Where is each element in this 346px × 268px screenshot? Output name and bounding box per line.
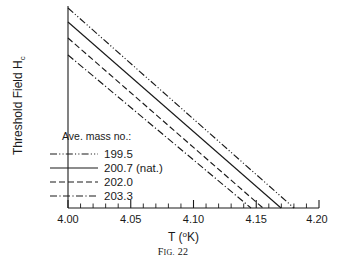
svg-text:Threshold Field Hc: Threshold Field Hc [11,56,27,155]
legend-label-2: 202.0 [104,176,133,188]
x-tick-label-2: 4.10 [183,213,204,225]
legend-label-1: 200.7 (nat.) [104,162,163,174]
x-axis-title-main: T ( [168,230,182,244]
series-line-199-5 [68,8,294,208]
x-tick-label-3: 4.15 [246,213,267,225]
legend-label-3: 203.3 [104,190,133,202]
legend-entry-200-7: 200.7 (nat.) [50,162,163,174]
y-axis-title-main: Threshold Field H [11,60,25,155]
legend-entry-199-5: 199.5 [50,148,133,160]
legend: Ave. mass no.: 199.5 200.7 (nat.) 202.0 … [50,130,163,202]
series-line-200-7 [68,22,281,208]
x-axis-title: T (oK) [168,230,199,244]
y-axis-title: Threshold Field Hc [11,56,27,155]
figure-container: 4.00 4.05 4.10 4.15 4.20 T (oK) Threshol… [0,0,346,268]
legend-entry-203-3: 203.3 [50,190,133,202]
legend-entry-202-0: 202.0 [50,176,133,188]
svg-text:T (oK): T (oK) [168,230,199,244]
x-axis-tick-labels: 4.00 4.05 4.10 4.15 4.20 [57,213,327,225]
x-tick-label-0: 4.00 [57,213,78,225]
x-tick-label-1: 4.05 [120,213,141,225]
legend-label-0: 199.5 [104,148,133,160]
figure-caption: FIG. 22 [0,246,346,257]
legend-title: Ave. mass no.: [62,130,131,142]
caption-number: 22 [178,246,189,257]
y-axis-title-subscript: c [18,56,27,60]
caption-small: IG. [164,248,175,257]
x-tick-label-4: 4.20 [306,213,327,225]
x-axis-title-tail: K) [187,230,199,244]
threshold-field-plot: 4.00 4.05 4.10 4.15 4.20 T (oK) Threshol… [0,0,346,268]
